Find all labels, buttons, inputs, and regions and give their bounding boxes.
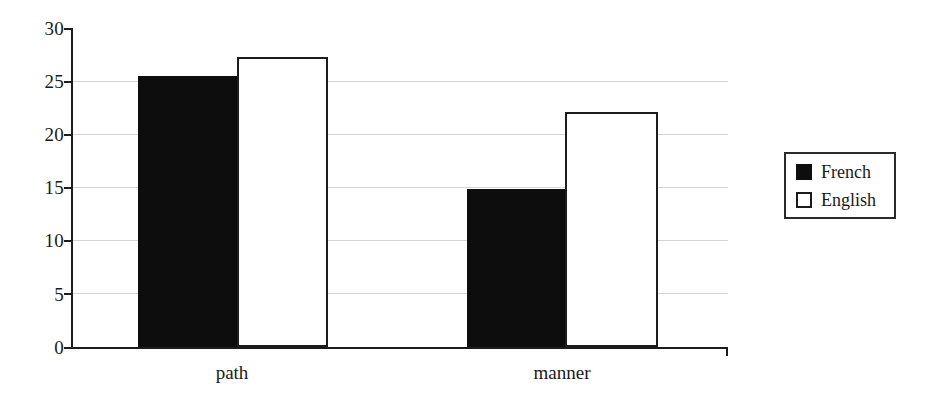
x-category-label-manner: manner	[492, 362, 632, 384]
bar-path-english	[237, 57, 328, 347]
x-category-label-path: path	[162, 362, 302, 384]
legend-label-english: English	[821, 191, 876, 209]
legend-swatch-filled-square-icon	[796, 164, 812, 180]
legend-item-french: French	[796, 161, 871, 183]
legend-label-french: French	[821, 163, 871, 181]
y-tick-label-15: 15	[20, 178, 64, 197]
y-tick-label-30: 30	[20, 19, 64, 38]
x-axis-line	[71, 347, 728, 349]
bar-path-french	[138, 76, 237, 347]
x-axis-end-tick	[726, 347, 728, 356]
bar-chart: 30 25 20 15 10 5 0 path manner French En…	[0, 0, 930, 410]
y-axis-line	[71, 28, 73, 348]
y-tick-label-10: 10	[20, 231, 64, 250]
legend-swatch-outlined-square-icon	[796, 192, 812, 208]
y-tick-label-20: 20	[20, 125, 64, 144]
legend: French English	[784, 152, 896, 219]
y-tick-label-0: 0	[20, 338, 64, 357]
bar-manner-english	[565, 112, 658, 347]
y-tick-label-25: 25	[20, 72, 64, 91]
legend-item-english: English	[796, 189, 876, 211]
bar-manner-french	[467, 189, 565, 347]
y-tick-label-5: 5	[20, 285, 64, 304]
